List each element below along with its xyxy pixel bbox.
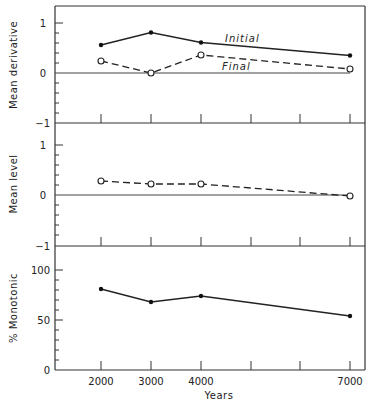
y-tick-label: 1 (40, 18, 46, 29)
y-tick-label: 1 (40, 140, 46, 151)
y-tick-label: 50 (37, 315, 50, 326)
x-tick-label: 7000 (337, 376, 362, 387)
series-initial-markers (99, 287, 352, 318)
y-axis-title: Mean derivative (8, 21, 19, 109)
chart-figure: 1 0 −1 Mean derivative Initial Final (0, 0, 373, 405)
x-axis-title: Years (204, 390, 234, 401)
panel-percent-monotonic: 100 50 0 % Monotonic 2000 3000 4000 7000… (8, 265, 363, 401)
annotation-final: Final (222, 61, 251, 72)
annotation-initial: Initial (225, 33, 260, 44)
x-tick-label: 3000 (138, 376, 163, 387)
series-final-line (101, 181, 350, 196)
y-tick-label: 0 (44, 365, 50, 376)
y-tick-label: 0 (40, 190, 46, 201)
x-tick-label: 2000 (88, 376, 113, 387)
series-final-markers (98, 178, 353, 199)
panel-mean-level: 1 0 −1 Mean level (8, 140, 353, 252)
y-tick-label: −1 (35, 118, 50, 129)
y-tick-label: −1 (35, 241, 50, 252)
y-axis-title: Mean level (8, 154, 19, 213)
y-axis-title: % Monotonic (8, 273, 19, 343)
series-initial-line (101, 289, 350, 316)
x-tick-label: 4000 (188, 376, 213, 387)
y-tick-label: 0 (40, 68, 46, 79)
y-tick-label: 100 (31, 265, 50, 276)
panel-mean-derivative: 1 0 −1 Mean derivative Initial Final (8, 18, 353, 129)
